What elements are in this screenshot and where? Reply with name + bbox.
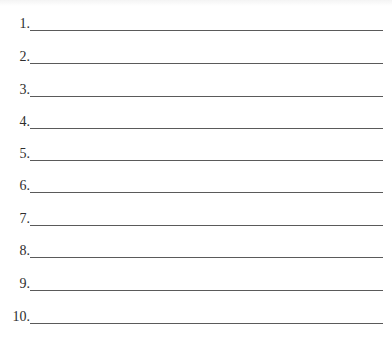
list-item: 1.: [0, 14, 392, 34]
answer-line: [30, 30, 383, 31]
list-item: 9.: [0, 274, 392, 294]
answer-line: [30, 128, 383, 129]
item-number: 5.: [20, 147, 31, 161]
item-number: 8.: [20, 244, 31, 258]
list-item: 6.: [0, 176, 392, 196]
list-item: 8.: [0, 241, 392, 261]
item-number: 1.: [20, 17, 31, 31]
list-item: 2.: [0, 47, 392, 67]
list-item: 10.: [0, 307, 392, 327]
list-item: 4.: [0, 112, 392, 132]
answer-line: [30, 192, 383, 193]
item-number: 10.: [13, 310, 31, 324]
list-item: 7.: [0, 209, 392, 229]
answer-line: [30, 63, 383, 64]
item-number: 9.: [20, 277, 31, 291]
answer-line: [30, 160, 383, 161]
page-top-edge: [0, 0, 392, 6]
answer-line: [30, 225, 383, 226]
item-number: 6.: [20, 179, 31, 193]
answer-line: [30, 257, 383, 258]
item-number: 4.: [20, 115, 31, 129]
answer-line: [30, 290, 383, 291]
item-number: 2.: [20, 50, 31, 64]
item-number: 7.: [20, 212, 31, 226]
answer-line: [30, 323, 383, 324]
list-item: 5.: [0, 144, 392, 164]
answer-line: [30, 96, 383, 97]
item-number: 3.: [20, 83, 31, 97]
list-item: 3.: [0, 80, 392, 100]
